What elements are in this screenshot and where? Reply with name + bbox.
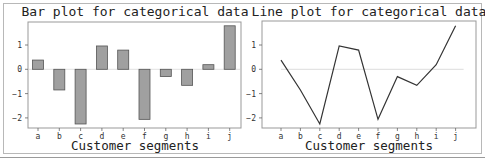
ytick-label: −1	[246, 90, 256, 99]
bar-series	[29, 26, 240, 124]
bar-j	[224, 26, 235, 69]
bar-i	[203, 65, 214, 70]
ytick-label: −1	[12, 90, 22, 99]
bar-chart: Bar plot for categorical data 10−1−2 abc…	[12, 4, 248, 153]
bar-a	[33, 60, 44, 69]
xtick-label: b	[298, 132, 303, 141]
ytick-label: −2	[12, 114, 22, 123]
line-chart-title: Line plot for categorical data	[252, 4, 485, 19]
bar-e	[118, 50, 129, 69]
ytick-label: 1	[251, 41, 256, 50]
xtick-label: j	[453, 132, 458, 141]
xtick-label: a	[279, 132, 284, 141]
xtick-label: i	[206, 132, 211, 141]
bar-f	[139, 69, 150, 119]
bar-b	[54, 69, 65, 90]
bar-chart-xlabel: Customer segments	[71, 138, 199, 153]
bar-d	[96, 46, 107, 69]
bar-h	[182, 69, 193, 85]
bar-g	[160, 69, 171, 76]
ytick-label: 0	[251, 65, 256, 74]
bar-c	[75, 69, 86, 124]
line-series	[281, 26, 456, 124]
xtick-label: a	[36, 132, 41, 141]
line-chart-axes	[262, 21, 476, 128]
line-chart: Line plot for categorical data 10−1−2 ab…	[246, 4, 485, 153]
ytick-label: −2	[246, 114, 256, 123]
ytick-label: 1	[17, 41, 22, 50]
ytick-label: 0	[17, 65, 22, 74]
line-chart-xlabel: Customer segments	[305, 138, 433, 153]
figure: Bar plot for categorical data 10−1−2 abc…	[0, 0, 485, 166]
bar-chart-title: Bar plot for categorical data	[22, 4, 249, 19]
bar-chart-yticks: 10−1−2	[12, 41, 28, 123]
xtick-label: b	[57, 132, 62, 141]
line-chart-yticks: 10−1−2	[246, 41, 262, 123]
xtick-label: j	[227, 132, 232, 141]
xtick-label: i	[434, 132, 439, 141]
